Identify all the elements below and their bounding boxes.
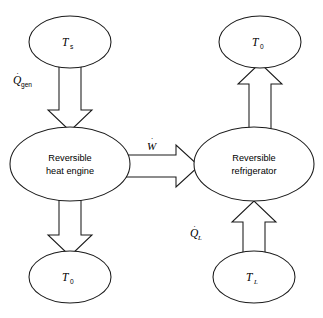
node-engine-sink-reservoir: T 0 xyxy=(29,251,111,303)
engine-sink-reservoir-subscript: 0 xyxy=(70,278,74,285)
node-refrigerator: Reversible refrigerator xyxy=(194,127,314,201)
ambient-reservoir-subscript: 0 xyxy=(260,43,264,50)
refrigerator-heat-rejection-arrow xyxy=(238,63,282,131)
cold-reservoir-subscript: L xyxy=(253,278,258,285)
ambient-reservoir-ellipse xyxy=(219,16,301,68)
node-heat-engine: Reversible heat engine xyxy=(10,127,130,201)
engine-heat-rejection-arrow xyxy=(48,196,92,256)
work-label: · W xyxy=(147,134,157,152)
node-source-reservoir: T s xyxy=(29,16,111,68)
work-symbol: W xyxy=(147,140,157,152)
qgen-subscript: gen xyxy=(21,81,32,89)
refrigerator-label-line2: refrigerator xyxy=(232,166,277,176)
heat-engine-label-line1: Reversible xyxy=(48,153,91,163)
engine-sink-reservoir-ellipse xyxy=(29,251,111,303)
thermodynamics-diagram: T s Reversible heat engine T 0 T 0 Rever… xyxy=(0,0,323,318)
heat-input-label: · Q gen xyxy=(13,69,32,89)
work-transfer-arrow xyxy=(126,145,199,187)
refrigerator-ellipse xyxy=(194,127,314,201)
node-cold-reservoir: T L xyxy=(213,251,295,303)
refrigerator-label-line1: Reversible xyxy=(232,153,275,163)
source-reservoir-ellipse xyxy=(29,16,111,68)
heat-input-arrow xyxy=(48,64,92,131)
heat-absorption-arrow xyxy=(232,201,276,257)
heat-engine-label-line2: heat engine xyxy=(46,166,94,176)
ql-subscript: L xyxy=(197,234,202,241)
node-ambient-reservoir: T 0 xyxy=(219,16,301,68)
cold-reservoir-ellipse xyxy=(213,251,295,303)
heat-absorption-label: · Q L xyxy=(190,222,202,241)
heat-engine-ellipse xyxy=(10,127,130,201)
